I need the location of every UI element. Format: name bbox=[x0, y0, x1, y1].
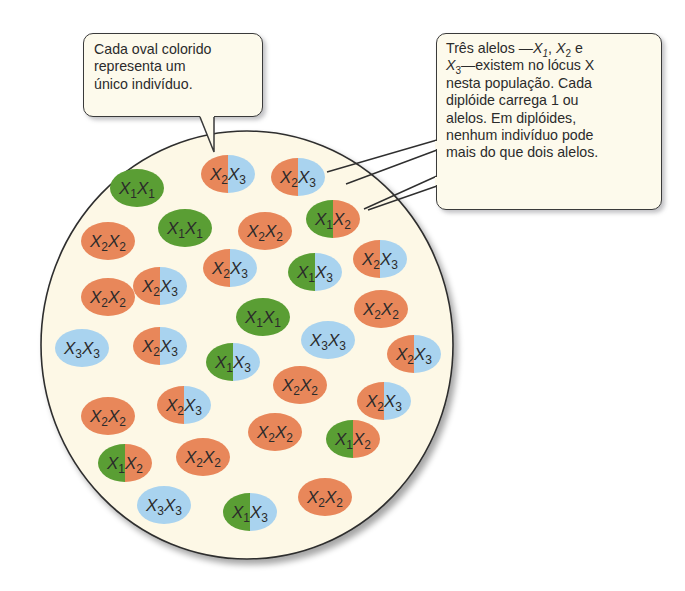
individual-oval-x1x1: X1X1 bbox=[110, 169, 164, 207]
individual-oval-x2x3: X2X3 bbox=[271, 158, 325, 196]
callout-right-notch-1 bbox=[435, 141, 439, 149]
individual-oval-x2x3: X2X3 bbox=[133, 327, 187, 365]
individual-oval-x3x3: X3X3 bbox=[137, 486, 191, 524]
individual-oval-x1x3: X1X3 bbox=[288, 253, 342, 291]
individual-oval-x2x3: X2X3 bbox=[353, 240, 407, 278]
callout-right-line-1: Três alelos —X1, X2 e bbox=[446, 40, 652, 57]
individual-oval-x2x3: X2X3 bbox=[157, 386, 211, 424]
individual-oval-x2x2: X2X2 bbox=[354, 290, 408, 328]
callout-right-line-4: diplóide carrega 1 ou bbox=[446, 92, 652, 109]
individual-oval-x2x3: X2X3 bbox=[133, 267, 187, 305]
individual-oval-x2x2: X2X2 bbox=[238, 212, 292, 250]
individual-oval-x1x1: X1X1 bbox=[158, 209, 212, 247]
callout-left-line-2: representa um bbox=[94, 58, 252, 75]
callout-right-line-3: nesta população. Cada bbox=[446, 75, 652, 92]
individual-oval-x2x2: X2X2 bbox=[248, 413, 302, 451]
callout-right-line-6: nenhum indivíduo pode bbox=[446, 127, 652, 144]
individual-oval-x1x2: X1X2 bbox=[98, 444, 152, 482]
callout-right-notch-2 bbox=[435, 177, 439, 185]
callout-right-line-2: X3—existem no lócus X bbox=[446, 57, 652, 74]
callout-left-line-1: Cada oval colorido bbox=[94, 41, 252, 58]
individual-oval-x2x2: X2X2 bbox=[298, 478, 352, 516]
individual-oval-x1x2: X1X2 bbox=[326, 420, 380, 458]
callout-right-line-5: alelos. Em diplóides, bbox=[446, 110, 652, 127]
callout-left-line-3: único indivíduo. bbox=[94, 76, 252, 93]
individual-oval-x2x3: X2X3 bbox=[203, 249, 257, 287]
individual-oval-x2x2: X2X2 bbox=[176, 438, 230, 476]
individual-oval-x1x2: X1X2 bbox=[306, 200, 360, 238]
callout-individual-note: Cada oval colorido representa um único i… bbox=[83, 33, 263, 117]
individual-oval-x3x3: X3X3 bbox=[301, 321, 355, 359]
population-genetics-diagram: X1X1X2X3X2X3X1X1X2X2X2X2X1X2X2X3X1X3X2X3… bbox=[0, 0, 685, 591]
individual-oval-x1x1: X1X1 bbox=[236, 298, 290, 336]
individual-oval-x2x2: X2X2 bbox=[81, 278, 135, 316]
callout-alleles-note: Três alelos —X1, X2 e X3—existem no lócu… bbox=[436, 33, 662, 210]
individual-oval-x2x2: X2X2 bbox=[81, 222, 135, 260]
individual-oval-x2x3: X2X3 bbox=[387, 335, 441, 373]
individual-oval-x3x3: X3X3 bbox=[55, 329, 109, 367]
individual-oval-x2x2: X2X2 bbox=[81, 397, 135, 435]
callout-right-line-7: mais do que dois alelos. bbox=[446, 144, 652, 161]
individual-oval-x1x3: X1X3 bbox=[223, 493, 277, 531]
individual-oval-x2x3: X2X3 bbox=[201, 155, 255, 193]
callout-left-tail bbox=[195, 114, 225, 156]
individual-oval-x2x3: X2X3 bbox=[357, 382, 411, 420]
individual-oval-x1x3: X1X3 bbox=[206, 343, 260, 381]
individual-oval-x2x2: X2X2 bbox=[273, 366, 327, 404]
